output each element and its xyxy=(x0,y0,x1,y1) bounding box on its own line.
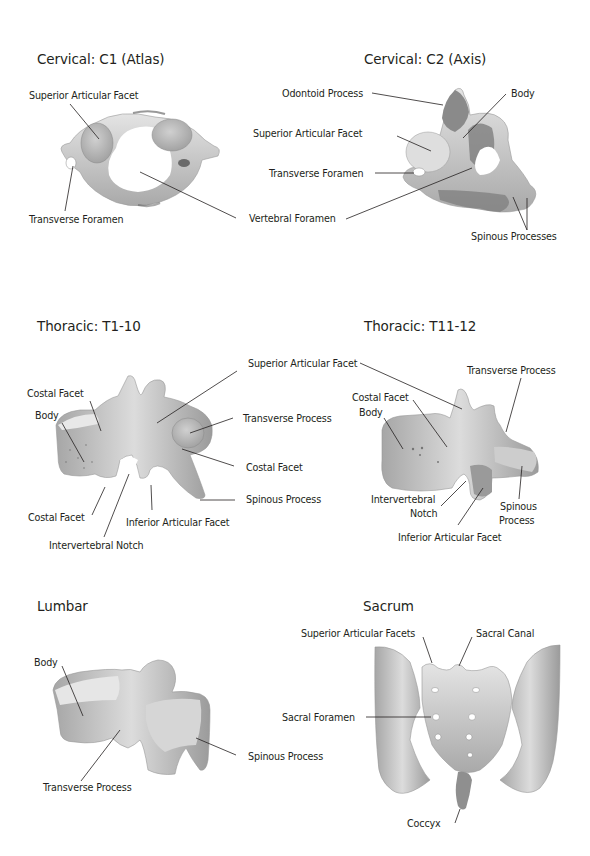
t1-10-label-spinous-process: Spinous Process xyxy=(246,494,321,505)
c1-label-vertebral-foramen: Vertebral Foramen xyxy=(249,213,336,224)
t1-10-title: Thoracic: T1-10 xyxy=(37,318,141,334)
t11-12-label-notch: Notch xyxy=(410,508,437,519)
c2-label-superior-articular-facet: Superior Articular Facet xyxy=(253,128,362,139)
t11-12-bone-image xyxy=(382,389,539,500)
c1-title: Cervical: C1 (Atlas) xyxy=(37,51,165,67)
sacrum-label-superior-articular-facets: Superior Articular Facets xyxy=(301,628,415,639)
t1-10-label-intervertebral-notch: Intervertebral Notch xyxy=(49,540,144,551)
c1-label-transverse-foramen: Transverse Foramen xyxy=(29,214,123,225)
lumbar-bone-image xyxy=(53,660,210,775)
sacrum-label-sacral-canal: Sacral Canal xyxy=(476,628,534,639)
t11-12-label-intervertebral: Intervertebral xyxy=(371,494,435,505)
t11-12-label-body: Body xyxy=(359,407,383,418)
lumbar-title: Lumbar xyxy=(37,598,88,614)
t11-12-label-spinous: Spinous xyxy=(500,501,537,512)
t1-10-label-costal-facet-top: Costal Facet xyxy=(27,388,84,399)
t1-10-label-costal-facet-bottom: Costal Facet xyxy=(28,512,85,523)
lumbar-label-body: Body xyxy=(34,657,58,668)
sacrum-bone-image xyxy=(375,645,560,810)
c2-title: Cervical: C2 (Axis) xyxy=(364,51,486,67)
t1-10-label-inferior-articular-facet: Inferior Articular Facet xyxy=(126,517,229,528)
lumbar-label-spinous-process: Spinous Process xyxy=(248,751,323,762)
c2-label-transverse-foramen: Transverse Foramen xyxy=(269,168,363,179)
c2-label-body: Body xyxy=(511,88,535,99)
c2-label-spinous-processes: Spinous Processes xyxy=(471,231,557,242)
c1-atlas-bone-image xyxy=(61,111,219,206)
t1-10-label-costal-facet-right: Costal Facet xyxy=(246,462,303,473)
sacrum-title: Sacrum xyxy=(363,598,414,614)
t11-12-label-process: Process xyxy=(499,515,534,526)
lumbar-label-transverse-process: Transverse Process xyxy=(43,782,132,793)
t1-10-label-superior-articular-facet: Superior Articular Facet xyxy=(248,358,357,369)
t11-12-label-costal-facet: Costal Facet xyxy=(352,392,409,403)
t11-12-title: Thoracic: T11-12 xyxy=(364,318,476,334)
t11-12-label-transverse-process: Transverse Process xyxy=(467,365,556,376)
c2-label-odontoid-process: Odontoid Process xyxy=(282,88,363,99)
t11-12-label-inferior-articular-facet: Inferior Articular Facet xyxy=(398,532,501,543)
sacrum-label-sacral-foramen: Sacral Foramen xyxy=(282,712,355,723)
t1-10-label-transverse-process: Transverse Process xyxy=(243,413,332,424)
c2-axis-bone-image xyxy=(403,88,536,212)
t1-10-label-body: Body xyxy=(35,410,59,421)
c1-label-superior-articular-facet: Superior Articular Facet xyxy=(29,90,138,101)
sacrum-label-coccyx: Coccyx xyxy=(407,818,441,829)
